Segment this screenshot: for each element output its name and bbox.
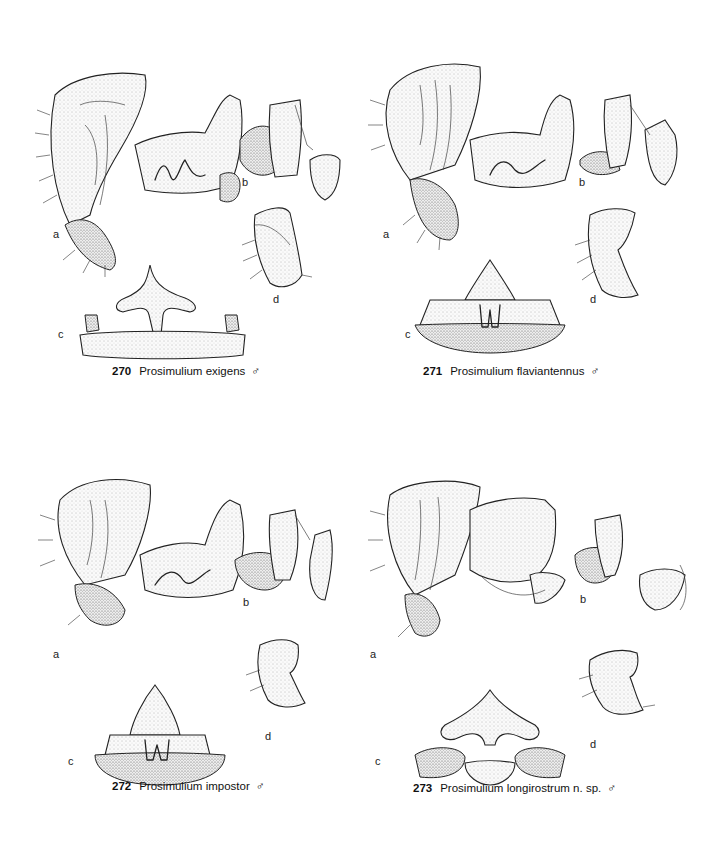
figure-270-label-d: d xyxy=(273,293,279,305)
figure-number: 271 xyxy=(423,365,442,377)
figure-270-label-a: a xyxy=(53,228,59,240)
figure-270-label-c: c xyxy=(58,328,64,340)
figure-270-caption: 270Prosimulium exigens♂ xyxy=(112,365,260,377)
figure-273-label-d: d xyxy=(590,738,596,750)
figure-272-label-a: a xyxy=(53,648,59,660)
species-name: Prosimulium longirostrum n. sp. xyxy=(440,782,601,794)
figure-271: a b c d 271Prosimulium flaviantennus♂ xyxy=(350,0,703,400)
male-symbol-icon: ♂ xyxy=(607,782,616,794)
figure-271-caption: 271Prosimulium flaviantennus♂ xyxy=(423,365,599,377)
figure-272-caption: 272Prosimulium impostor♂ xyxy=(112,780,264,792)
figure-271-label-a: a xyxy=(383,228,389,240)
figure-number: 272 xyxy=(112,780,131,792)
figure-272-label-d: d xyxy=(265,730,271,742)
figure-273-label-c: c xyxy=(375,755,381,767)
figure-270: a b c d 270Prosimulium e xyxy=(0,0,350,400)
figure-271-label-d: d xyxy=(590,293,596,305)
figure-271-label-c: c xyxy=(405,328,411,340)
figure-273: a b c d 273Prosimulium longirostrum n. s xyxy=(350,420,703,843)
species-name: Prosimulium flaviantennus xyxy=(450,365,584,377)
species-name: Prosimulium exigens xyxy=(139,365,245,377)
male-symbol-icon: ♂ xyxy=(590,365,599,377)
male-symbol-icon: ♂ xyxy=(256,780,265,792)
figure-270-label-b: b xyxy=(242,176,248,188)
figure-272: a b c d 272Prosimulium impostor♂ xyxy=(0,420,350,843)
figure-272-label-c: c xyxy=(68,755,74,767)
figure-number: 270 xyxy=(112,365,131,377)
figure-273-label-a: a xyxy=(370,648,376,660)
male-symbol-icon: ♂ xyxy=(251,365,260,377)
species-name: Prosimulium impostor xyxy=(139,780,250,792)
figure-273-caption: 273Prosimulium longirostrum n. sp.♂ xyxy=(413,782,616,794)
figure-271-label-b: b xyxy=(579,176,585,188)
figure-273-label-b: b xyxy=(580,593,586,605)
figure-272-label-b: b xyxy=(243,596,249,608)
figure-number: 273 xyxy=(413,782,432,794)
